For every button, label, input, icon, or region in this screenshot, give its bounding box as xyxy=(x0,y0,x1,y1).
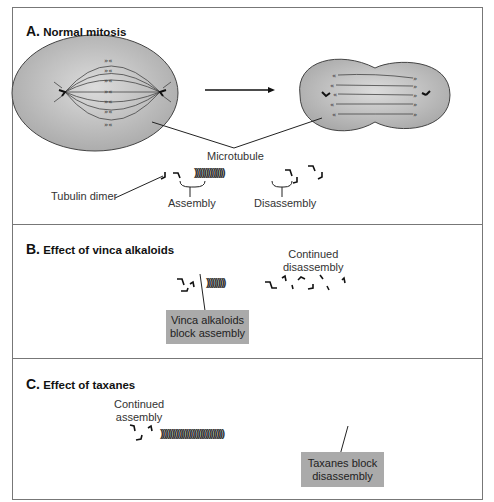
svg-text:»: » xyxy=(413,101,417,109)
svg-text:»: » xyxy=(413,83,417,91)
section-a-title: A. Normal mitosis xyxy=(26,23,126,39)
svg-text:«: « xyxy=(332,111,336,119)
svg-text:»: » xyxy=(413,111,417,119)
svg-text:«: « xyxy=(332,72,336,80)
section-b-title: B. Effect of vinca alkaloids xyxy=(26,241,174,257)
taxanes-box-line1: Taxanes block xyxy=(308,457,378,470)
svg-text:«: « xyxy=(333,91,337,99)
taxanes-block-box: Taxanes block disassembly xyxy=(301,452,384,487)
continued-disassembly-line1: Continued xyxy=(283,248,344,261)
section-c-title: C. Effect of taxanes xyxy=(26,376,135,392)
microtubule-chain-b: )))))))))) xyxy=(206,276,225,289)
continued-disassembly-line2: disassembly xyxy=(283,261,344,274)
disassembly-label: Disassembly xyxy=(254,197,316,210)
section-a-letter: A. xyxy=(26,23,40,39)
svg-text:«: « xyxy=(330,101,334,109)
microtubule-label: Microtubule xyxy=(207,150,264,163)
vinca-box-line2: block assembly xyxy=(170,327,245,340)
svg-text:»«: »« xyxy=(104,77,113,85)
taxanes-box-line2: disassembly xyxy=(308,470,378,483)
anaphase-cell: ««««« »»»»» xyxy=(300,59,450,131)
assembly-label: Assembly xyxy=(168,197,216,210)
svg-text:»«: »« xyxy=(104,108,113,116)
section-c-letter: C. xyxy=(26,376,40,392)
vinca-box-line1: Vinca alkaloids xyxy=(170,314,245,327)
svg-text:»: » xyxy=(413,92,417,100)
svg-text:»«: »« xyxy=(104,98,113,106)
microtubule-chain-a: )))))))))))))))) xyxy=(194,166,224,179)
metaphase-cell: »«»«»« »«»«»«»« xyxy=(12,35,178,151)
svg-text:»«: »« xyxy=(104,67,113,75)
svg-text:»«: »« xyxy=(104,57,113,65)
continued-disassembly-label: Continued disassembly xyxy=(283,248,344,274)
continued-assembly-label: Continued assembly xyxy=(114,398,164,424)
section-b-letter: B. xyxy=(26,241,40,257)
tubulin-dimer-label: Tubulin dimer xyxy=(51,190,117,203)
section-a-title-text: Normal mitosis xyxy=(43,26,126,38)
continued-assembly-line2: assembly xyxy=(114,411,164,424)
section-c-title-text: Effect of taxanes xyxy=(43,379,135,391)
svg-text:»«: »« xyxy=(104,88,113,96)
continued-assembly-line1: Continued xyxy=(114,398,164,411)
svg-text:»«: »« xyxy=(104,121,113,129)
microtubule-chain-c: )))))))))))))))))))))))))))))))))) xyxy=(160,427,223,440)
svg-text:«: « xyxy=(330,82,334,90)
svg-text:»: » xyxy=(413,75,417,83)
vinca-block-box: Vinca alkaloids block assembly xyxy=(166,310,249,344)
section-b-title-text: Effect of vinca alkaloids xyxy=(43,244,174,256)
